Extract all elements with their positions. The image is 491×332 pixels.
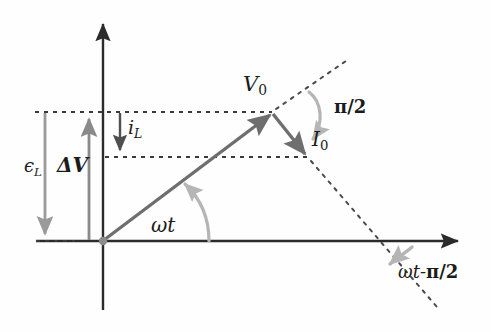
phasor-i0 [273,114,305,154]
dotted-extension-lower [311,161,437,307]
phasor-diagram-figure: V0 I0 π/2 iL ϵL ΔV ωt ωt-π/2 [0,0,491,332]
label-v0: V0 [243,74,267,98]
origin-point [99,237,107,245]
label-pi-over-2: π/2 [334,98,366,116]
label-omega-t: ωt [151,215,175,235]
label-epsilon-l: ϵL [24,157,42,178]
label-omega-t-minus-pi-over-2: ωt-π/2 [398,263,458,281]
label-i0: I0 [312,129,328,152]
arc-omega-t [185,184,209,241]
label-delta-v: ΔV [57,155,88,175]
label-i-l: iL [128,118,142,140]
